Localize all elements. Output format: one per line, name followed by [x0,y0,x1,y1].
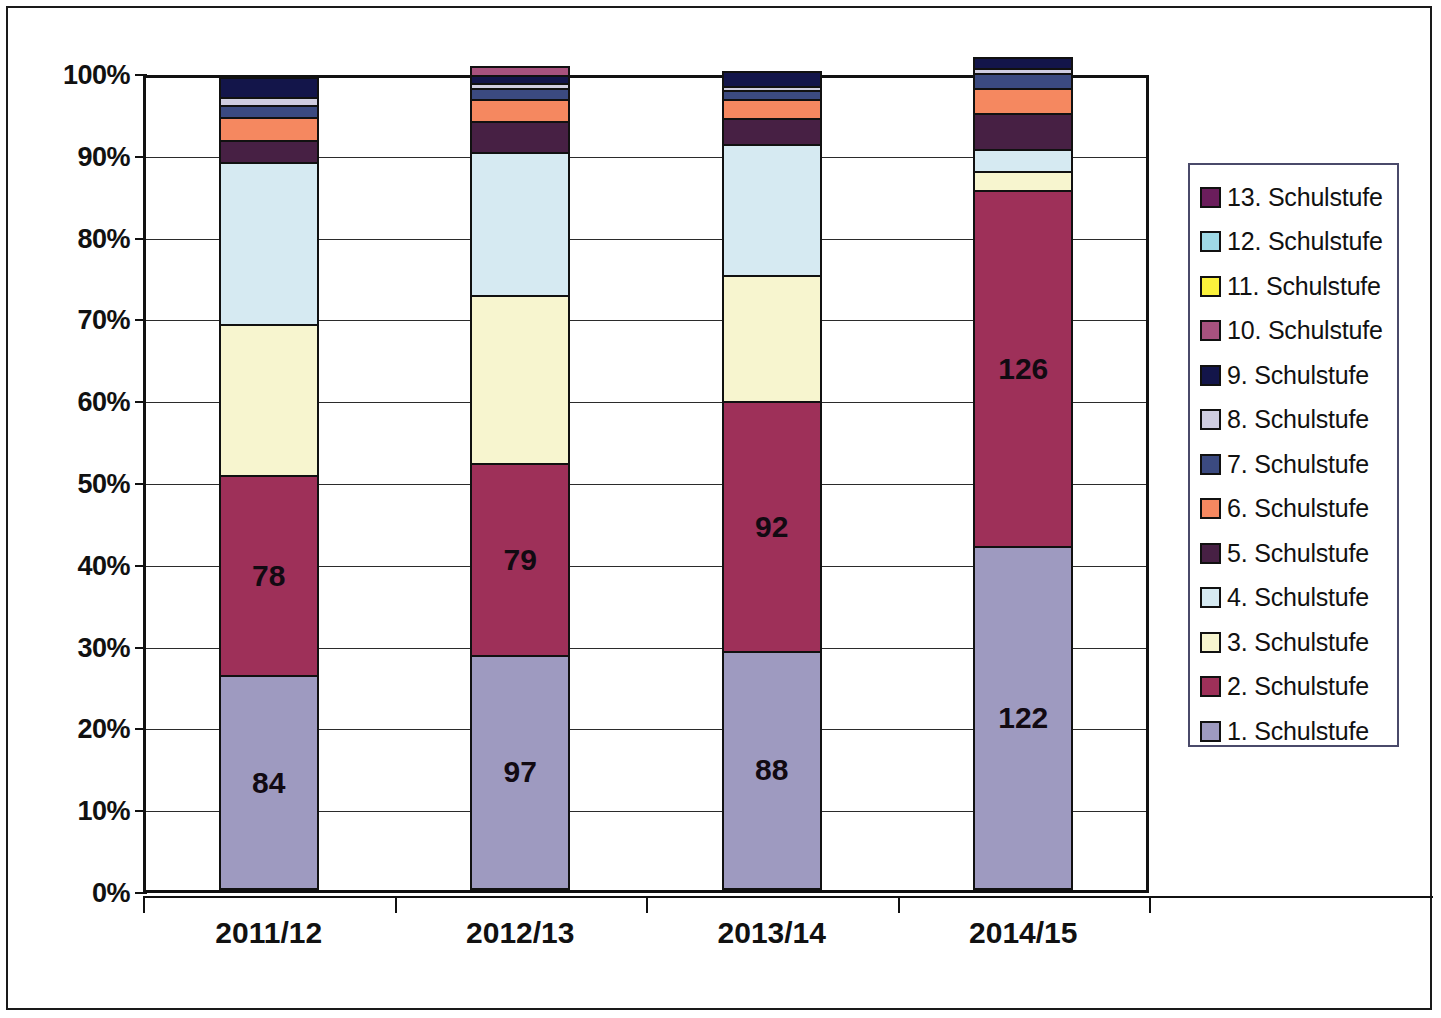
x-axis-tick-label: 2011/12 [169,916,369,950]
bar-segment-value-label: 126 [998,354,1048,384]
bar-segment[interactable] [722,275,822,404]
legend-item[interactable]: 6. Schulstufe [1200,487,1397,532]
y-axis-tick-label: 10% [18,796,130,827]
legend-item-label: 7. Schulstufe [1227,450,1369,479]
legend-item[interactable]: 13. Schulstufe [1200,175,1397,220]
y-axis-tick-label: 0% [18,878,130,909]
chart-legend: 13. Schulstufe12. Schulstufe11. Schulstu… [1188,163,1399,747]
bar-segment[interactable] [722,99,822,120]
legend-swatch-icon [1200,454,1221,475]
bar-segment[interactable] [722,118,822,145]
bar-segment-value-label: 122 [998,703,1048,733]
bar-segment[interactable] [973,57,1073,70]
bar-segment-value-label: 92 [755,512,788,542]
stacked-bar[interactable]: 8478 [219,72,319,890]
y-axis-tick-label: 40% [18,550,130,581]
bar-segment-value-label: 88 [755,755,788,785]
legend-item[interactable]: 8. Schulstufe [1200,398,1397,443]
legend-item[interactable]: 11. Schulstufe [1200,264,1397,309]
bar-segment-value-label: 78 [252,561,285,591]
legend-item[interactable]: 10. Schulstufe [1200,309,1397,354]
bar-segment[interactable] [470,152,570,297]
bar-segment[interactable]: 84 [219,675,319,890]
legend-item[interactable]: 4. Schulstufe [1200,576,1397,621]
plot-area: 847897798892122126 [143,75,1149,893]
stacked-bar[interactable]: 122126 [973,72,1073,890]
y-axis-tick-label: 60% [18,387,130,418]
x-axis-tick-label: 2014/15 [923,916,1123,950]
legend-item[interactable]: 12. Schulstufe [1200,220,1397,265]
legend-item-label: 2. Schulstufe [1227,672,1369,701]
bar-segment[interactable]: 97 [470,655,570,890]
legend-item[interactable]: 3. Schulstufe [1200,620,1397,665]
legend-item-label: 12. Schulstufe [1227,227,1383,256]
legend-swatch-icon [1200,632,1221,653]
bar-segment[interactable] [470,88,570,101]
bar-segment[interactable] [973,113,1073,152]
legend-swatch-icon [1200,409,1221,430]
bar-segment[interactable] [219,162,319,326]
legend-item[interactable]: 7. Schulstufe [1200,442,1397,487]
legend-item[interactable]: 1. Schulstufe [1200,709,1397,754]
legend-item[interactable]: 9. Schulstufe [1200,353,1397,398]
legend-item-label: 3. Schulstufe [1227,628,1369,657]
bar-segment[interactable] [722,144,822,277]
legend-item-label: 11. Schulstufe [1227,272,1381,301]
y-axis-tick-label: 50% [18,469,130,500]
bar-segment[interactable]: 88 [722,651,822,890]
bar-segment[interactable]: 79 [470,463,570,657]
x-axis-tick-mark [143,897,145,913]
stacked-bar[interactable]: 8892 [722,72,822,890]
legend-item[interactable]: 2. Schulstufe [1200,665,1397,710]
legend-item-label: 1. Schulstufe [1227,717,1369,746]
legend-item-label: 6. Schulstufe [1227,494,1369,523]
bar-segment[interactable] [973,171,1073,193]
x-axis-line [143,896,1433,898]
bar-segment[interactable] [973,88,1073,115]
y-axis-tick-label: 90% [18,141,130,172]
legend-swatch-icon [1200,231,1221,252]
bar-segment-value-label: 97 [504,757,537,787]
bar-segment-value-label: 79 [504,545,537,575]
legend-swatch-icon [1200,587,1221,608]
bar-segment[interactable] [722,71,822,88]
legend-swatch-icon [1200,676,1221,697]
bar-segment[interactable] [470,66,570,77]
bar-segment[interactable] [470,99,570,122]
bar-segment[interactable]: 122 [973,546,1073,890]
bar-segment-value-label: 84 [252,768,285,798]
legend-item-label: 4. Schulstufe [1227,583,1369,612]
legend-swatch-icon [1200,276,1221,297]
bar-segment[interactable] [219,105,319,118]
bar-segment[interactable] [219,77,319,99]
legend-item[interactable]: 5. Schulstufe [1200,531,1397,576]
x-axis-tick-label: 2013/14 [672,916,872,950]
bar-segment[interactable]: 92 [722,401,822,652]
bar-segment[interactable] [973,73,1073,90]
bar-segment[interactable] [219,140,319,164]
bar-segment[interactable] [219,117,319,142]
bar-segment[interactable] [470,121,570,154]
x-axis-tick-label: 2012/13 [420,916,620,950]
legend-swatch-icon [1200,498,1221,519]
bar-segment[interactable] [470,295,570,465]
y-axis-tick-label: 70% [18,305,130,336]
legend-item-label: 9. Schulstufe [1227,361,1369,390]
legend-item-label: 10. Schulstufe [1227,316,1383,345]
bar-segment[interactable] [219,324,319,477]
legend-swatch-icon [1200,320,1221,341]
x-axis-tick-mark [898,897,900,913]
y-axis-tick-label: 100% [18,60,130,91]
legend-swatch-icon [1200,187,1221,208]
y-axis-tick-label: 80% [18,223,130,254]
legend-item-label: 8. Schulstufe [1227,405,1369,434]
legend-item-label: 5. Schulstufe [1227,539,1369,568]
bar-segment[interactable]: 78 [219,475,319,677]
bar-segment[interactable] [973,149,1073,172]
bar-segment[interactable]: 126 [973,190,1073,548]
x-axis-tick-mark [1149,897,1151,913]
stacked-bar[interactable]: 9779 [470,72,570,890]
chart-figure: 0%10%20%30%40%50%60%70%80%90%100% 847897… [6,6,1432,1010]
x-axis-tick-mark [395,897,397,913]
x-axis-tick-mark [646,897,648,913]
